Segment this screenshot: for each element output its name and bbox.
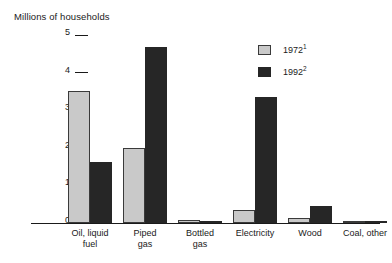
bar-1992	[90, 162, 112, 223]
bar-1972	[68, 91, 90, 223]
bar-group	[123, 35, 167, 223]
legend-item: 19922	[258, 64, 307, 79]
legend-swatch	[258, 45, 271, 55]
chart-axis-title: Millions of households	[14, 11, 110, 22]
bar-1972	[123, 148, 145, 223]
legend-footnote-marker: 1	[303, 43, 307, 50]
bar-1992	[310, 206, 332, 223]
bars-layer	[44, 35, 380, 223]
bar-group	[343, 35, 387, 223]
bar-1992	[255, 97, 277, 223]
x-axis-tick-label: Coal, other	[329, 228, 392, 239]
legend-swatch	[258, 67, 271, 77]
bar-1972	[233, 210, 255, 223]
legend-label: 19922	[283, 67, 307, 77]
legend-item: 19721	[258, 42, 307, 57]
bar-group	[178, 35, 222, 223]
bar-1992	[145, 47, 167, 223]
plot-area: 012345	[44, 35, 380, 223]
bar-group	[68, 35, 112, 223]
x-axis-line	[31, 223, 380, 224]
legend-label: 19721	[283, 45, 307, 55]
legend-footnote-marker: 2	[303, 65, 307, 72]
chart-legend: 1972119922	[258, 42, 307, 86]
